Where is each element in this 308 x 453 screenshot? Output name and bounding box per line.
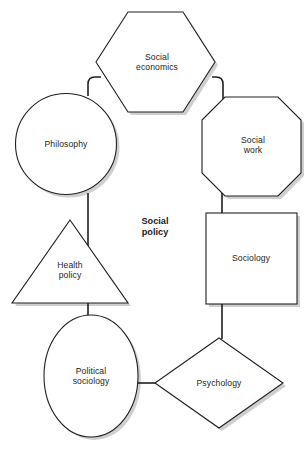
psychology-shape[interactable]	[155, 338, 283, 428]
diagram-center-title: Social policy	[141, 216, 168, 238]
connector-philosophy-social-economics	[88, 77, 101, 96]
social-policy-diagram: Social economics Philosophy Social work …	[0, 0, 308, 453]
social-work-shape[interactable]	[202, 97, 301, 196]
political-sociology-shape[interactable]	[44, 315, 138, 437]
philosophy-shape[interactable]	[16, 94, 117, 195]
sociology-shape[interactable]	[206, 213, 297, 304]
health-policy-shape[interactable]	[12, 220, 128, 303]
connector-social-economics-social-work	[212, 77, 223, 101]
